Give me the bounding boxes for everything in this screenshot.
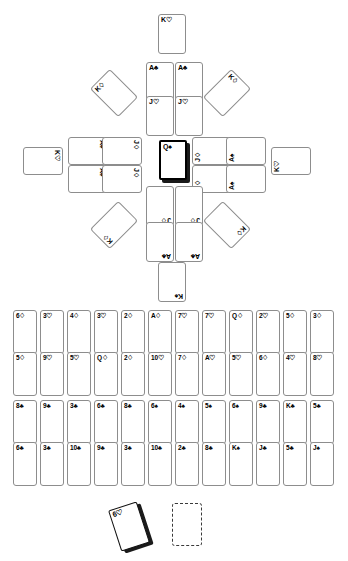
grid-card-2-7[interactable]: 7♢ [175, 352, 199, 396]
card-corner-label: 5♡ [232, 354, 241, 361]
card-left-outer[interactable]: K♡ [23, 147, 63, 175]
grid-card-3-11[interactable]: K♣ [283, 400, 307, 444]
grid-card-3-8[interactable]: 5♠ [202, 400, 226, 444]
card-corner-label: 8♡ [313, 354, 322, 361]
card-corner-label: 6♠ [232, 402, 239, 409]
grid-card-2-9[interactable]: 5♡ [229, 352, 253, 396]
card-bot-inner-right[interactable]: A♣ [175, 222, 203, 262]
card-corner-label: J♢ [194, 153, 202, 163]
grid-card-4-3[interactable]: 10♣ [67, 442, 91, 486]
grid-card-2-12[interactable]: 8♡ [310, 352, 334, 396]
grid-card-1-3[interactable]: 4♢ [67, 310, 91, 354]
card-corner-label: 2♢ [124, 312, 133, 319]
card-bot-mid-left[interactable]: J♢ [146, 186, 174, 226]
card-corner-label: K♢ [226, 72, 239, 85]
card-top-mid-left[interactable]: J♡ [146, 96, 174, 136]
grid-card-3-1[interactable]: 8♣ [13, 400, 37, 444]
grid-card-4-1[interactable]: 6♣ [13, 442, 37, 486]
grid-card-2-3[interactable]: 5♡ [67, 352, 91, 396]
grid-card-4-12[interactable]: J♠ [310, 442, 334, 486]
card-corner-label: J♡ [149, 98, 159, 106]
grid-card-3-12[interactable]: 5♣ [310, 400, 334, 444]
card-corner-label: 5♣ [313, 402, 320, 409]
grid-card-1-10[interactable]: 2♡ [256, 310, 280, 354]
dragged-card[interactable]: 6♡ [108, 501, 150, 551]
grid-card-4-9[interactable]: K♠ [229, 442, 253, 486]
grid-card-3-4[interactable]: 6♣ [94, 400, 118, 444]
card-corner-label: 2♣ [178, 444, 185, 451]
card-right-inner-top[interactable]: A♠ [226, 137, 266, 165]
drop-target-slot[interactable] [172, 503, 202, 546]
card-corner-label: A♣ [162, 252, 171, 260]
card-corner-label: 4♠ [178, 402, 185, 409]
grid-card-2-1[interactable]: 5♢ [13, 352, 37, 396]
grid-card-2-10[interactable]: 6♢ [256, 352, 280, 396]
card-bot-inner-left[interactable]: A♣ [146, 222, 174, 262]
card-diag-top-left[interactable]: K♢ [90, 69, 138, 117]
grid-card-1-12[interactable]: 3♢ [310, 310, 334, 354]
card-corner-label: Q♢ [97, 354, 108, 361]
grid-card-1-8[interactable]: 7♡ [202, 310, 226, 354]
card-diag-bot-right[interactable]: K♢ [203, 201, 251, 249]
card-top-outer[interactable]: K♡ [158, 14, 186, 54]
card-corner-label: 5♡ [70, 354, 79, 361]
card-corner-label: K♠ [232, 444, 240, 451]
grid-card-4-6[interactable]: 10♣ [148, 442, 172, 486]
grid-card-4-7[interactable]: 2♣ [175, 442, 199, 486]
card-corner-label: 4♢ [70, 312, 79, 319]
card-bot-outer[interactable]: K♠ [158, 262, 186, 302]
grid-card-4-11[interactable]: 5♣ [283, 442, 307, 486]
grid-card-1-2[interactable]: 3♡ [40, 310, 64, 354]
card-corner-label: 9♣ [97, 444, 104, 451]
grid-card-2-5[interactable]: 2♢ [121, 352, 145, 396]
card-centre[interactable]: Q♠ [159, 140, 187, 180]
grid-card-1-4[interactable]: 3♡ [94, 310, 118, 354]
grid-card-3-10[interactable]: 9♣ [256, 400, 280, 444]
card-left-mid-bot[interactable]: J♢ [102, 165, 142, 193]
grid-card-4-8[interactable]: 8♣ [202, 442, 226, 486]
grid-card-3-7[interactable]: 4♠ [175, 400, 199, 444]
card-corner-label: 9♣ [43, 402, 50, 409]
card-corner-label: 6♣ [16, 444, 23, 451]
grid-card-4-10[interactable]: J♣ [256, 442, 280, 486]
grid-card-3-6[interactable]: 6♠ [148, 400, 172, 444]
card-corner-label: K♢ [102, 232, 115, 245]
grid-card-3-2[interactable]: 9♣ [40, 400, 64, 444]
grid-card-2-8[interactable]: A♡ [202, 352, 226, 396]
card-corner-label: 3♣ [124, 444, 131, 451]
card-corner-label: A♢ [151, 312, 161, 319]
card-corner-label: 5♠ [205, 402, 212, 409]
grid-card-1-6[interactable]: A♢ [148, 310, 172, 354]
card-corner-label: 7♡ [205, 312, 214, 319]
grid-card-2-6[interactable]: 10♡ [148, 352, 172, 396]
grid-card-4-5[interactable]: 3♣ [121, 442, 145, 486]
card-top-mid-right[interactable]: J♡ [175, 96, 203, 136]
grid-card-3-3[interactable]: 3♣ [67, 400, 91, 444]
card-corner-label: A♠ [228, 182, 236, 190]
card-corner-label: A♠ [228, 154, 236, 162]
card-corner-label: 3♡ [97, 312, 106, 319]
grid-card-3-9[interactable]: 6♠ [229, 400, 253, 444]
grid-card-2-11[interactable]: 4♡ [283, 352, 307, 396]
grid-card-2-4[interactable]: Q♢ [94, 352, 118, 396]
card-bot-mid-right[interactable]: J♢ [175, 186, 203, 226]
card-left-mid-top[interactable]: J♢ [102, 137, 142, 165]
grid-card-2-2[interactable]: 9♡ [40, 352, 64, 396]
card-diag-top-right[interactable]: K♢ [203, 69, 251, 117]
grid-card-1-7[interactable]: 7♡ [175, 310, 199, 354]
card-corner-label: 10♣ [151, 444, 162, 451]
grid-card-1-9[interactable]: Q♢ [229, 310, 253, 354]
card-right-outer[interactable]: K♡ [271, 147, 311, 175]
card-corner-label: 3♣ [70, 402, 77, 409]
card-corner-label: J♠ [313, 444, 320, 451]
grid-card-4-4[interactable]: 9♣ [94, 442, 118, 486]
grid-card-1-1[interactable]: 6♢ [13, 310, 37, 354]
card-diag-bot-left[interactable]: K♢ [90, 201, 138, 249]
grid-card-1-5[interactable]: 2♢ [121, 310, 145, 354]
grid-card-4-2[interactable]: 3♣ [40, 442, 64, 486]
card-right-inner-bot[interactable]: A♠ [226, 165, 266, 193]
card-corner-label: 9♡ [43, 354, 52, 361]
grid-card-3-5[interactable]: 8♣ [121, 400, 145, 444]
grid-card-1-11[interactable]: 5♢ [283, 310, 307, 354]
card-corner-label: 8♣ [124, 402, 131, 409]
